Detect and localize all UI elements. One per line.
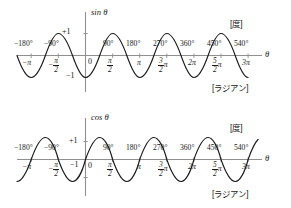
sine-function-label: sin θ [91,8,107,17]
cosine-chart-group [17,118,262,196]
cosine-deg-tick--180: −180° [14,144,33,152]
sine-chart-group [17,12,262,92]
cosine-deg-tick-540: 540° [234,144,248,152]
sine-deg-tick-540: 540° [234,40,248,48]
cosine-x-axis-name: θ [265,154,269,163]
sine-rad-tick--pi-over-2: −π2 [48,57,59,74]
cosine-unit-radian-label: [ラジアン] [212,190,249,198]
sine-y-label-plus-one: +1 [62,28,71,36]
cosine-rad-tick--pi-over-2: −π2 [48,161,59,178]
sine-rad-tick--pi: −π [22,59,31,67]
sine-rad-tick-5pi-over-2: 52π [212,57,222,74]
cosine-rad-tick-pi-over-2: π2 [107,161,113,178]
cosine-function-label: cos θ [91,113,109,122]
sine-deg-tick-90: 90° [103,40,114,48]
cosine-rad-tick-3pi-over-2: 32π [158,161,168,178]
sine-rad-tick-pi-over-2: π2 [107,57,113,74]
sine-unit-radian-label: [ラジアン] [212,84,249,92]
sine-deg-tick-180: 180° [126,40,140,48]
cosine-y-label-minus-one: −1 [70,161,79,169]
cosine-deg-tick-450: 450° [207,144,221,152]
sine-unit-degree-label: [度] [230,20,243,28]
cosine-deg-tick-180: 180° [126,144,140,152]
cosine-rad-tick-5pi-over-2: 52π [212,161,222,178]
sine-y-label-minus-one: −1 [66,72,75,80]
cosine-deg-tick--90: −90° [44,144,59,152]
sine-deg-tick--180: −180° [14,40,33,48]
sine-x-axis-name: θ [265,50,269,59]
cosine-deg-tick-360: 360° [180,144,194,152]
sine-deg-tick-450: 450° [207,40,221,48]
cosine-origin-label: 0 [88,162,92,170]
cosine-rad-tick--pi: −π [22,163,31,171]
trig-graph-figure: sin θ [度] +1 −1 −180° −90° 90° 180° 270°… [0,0,291,208]
cosine-rad-tick-2pi: 2π [188,163,196,171]
graph-canvas [0,0,291,208]
cosine-rad-tick-pi: π [137,163,141,171]
sine-rad-tick-3pi-over-2: 32π [158,57,168,74]
cosine-deg-tick-270: 270° [153,144,167,152]
sine-rad-tick-pi: π [137,59,141,67]
cosine-rad-tick-3pi: 3π [242,163,250,171]
sine-origin-label: 0 [88,58,92,66]
sine-deg-tick-270: 270° [153,40,167,48]
sine-deg-tick-360: 360° [180,40,194,48]
cosine-deg-tick-90: 90° [103,144,114,152]
cosine-y-label-plus-one: +1 [69,137,78,145]
sine-rad-tick-2pi: 2π [188,59,196,67]
sine-rad-tick-3pi: 3π [242,59,250,67]
cosine-unit-degree-label: [度] [230,124,243,132]
sine-deg-tick--90: −90° [44,40,59,48]
